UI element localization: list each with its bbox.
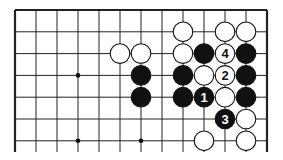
white-stone: 2 — [215, 66, 235, 86]
white-stone: 4 — [215, 44, 235, 64]
white-stone — [236, 22, 256, 42]
black-stone: 3 — [215, 109, 235, 129]
white-stone — [131, 44, 151, 64]
white-stone — [215, 22, 235, 42]
black-stone — [236, 87, 256, 107]
star-point — [76, 73, 81, 78]
white-stone — [110, 44, 130, 64]
black-stone — [173, 87, 193, 107]
white-stone — [173, 44, 193, 64]
black-stone — [173, 66, 193, 86]
black-stone — [236, 44, 256, 64]
go-board: 4213 — [0, 0, 283, 160]
black-stone — [131, 66, 151, 86]
white-stone — [236, 131, 256, 151]
white-stone — [236, 109, 256, 129]
star-point — [76, 139, 81, 144]
black-stone — [131, 87, 151, 107]
move-number-label: 1 — [200, 90, 207, 105]
star-point — [139, 139, 144, 144]
move-number-label: 3 — [221, 112, 228, 127]
white-stone — [194, 66, 214, 86]
star-points — [76, 73, 144, 143]
black-stone — [236, 66, 256, 86]
white-stone — [215, 87, 235, 107]
black-stone: 1 — [194, 87, 214, 107]
black-stone — [194, 44, 214, 64]
move-number-label: 4 — [221, 46, 229, 61]
move-number-label: 2 — [221, 68, 228, 83]
white-stone — [173, 22, 193, 42]
white-stone — [194, 131, 214, 151]
